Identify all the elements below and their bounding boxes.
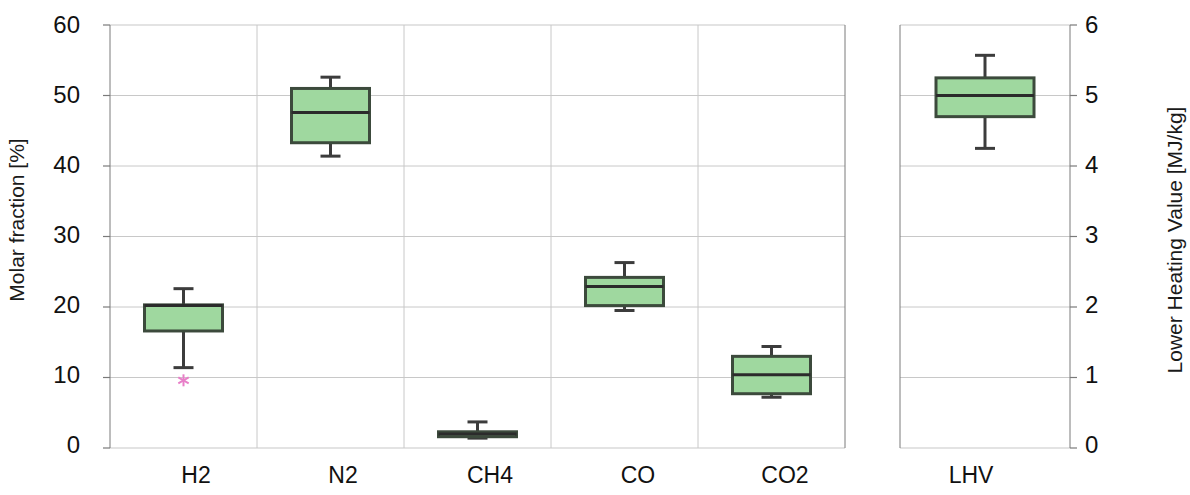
box-rect-N2 <box>292 88 370 142</box>
box-h2 <box>145 289 223 387</box>
box-n2 <box>292 77 370 156</box>
grid-layer <box>110 25 1070 448</box>
box-rect-CO <box>586 277 664 305</box>
box-rect-H2 <box>145 305 223 331</box>
boxes-layer <box>145 55 1035 438</box>
box-lhv <box>936 55 1034 148</box>
box-rect-LHV <box>936 78 1034 117</box>
box-co <box>586 263 664 311</box>
box-co2 <box>733 346 811 397</box>
box-ch4 <box>439 422 517 438</box>
outlier-H2-0 <box>178 374 188 386</box>
box-plot-chart: Molar fraction [%] Lower Heating Value [… <box>0 0 1190 495</box>
plot-area <box>0 0 1190 495</box>
